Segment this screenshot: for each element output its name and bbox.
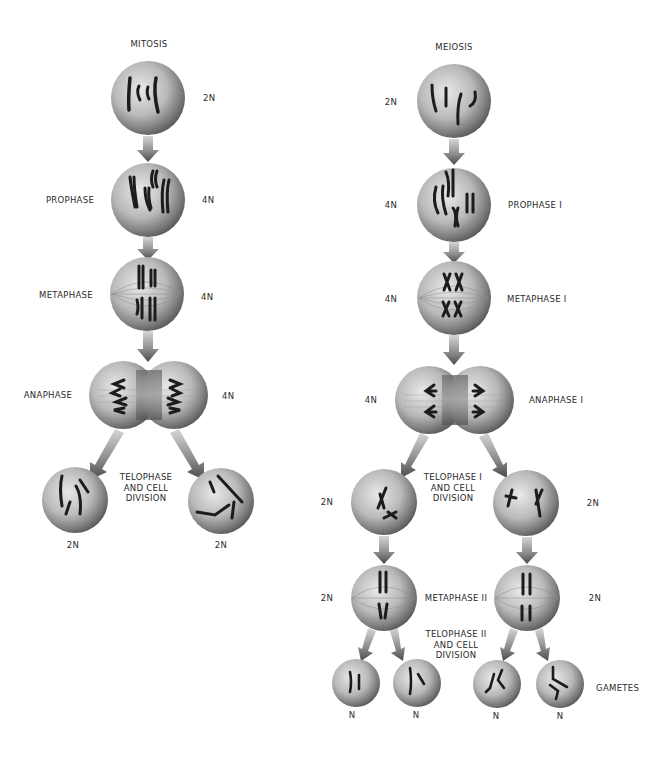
arrow-icon [137,331,159,362]
stage-label-telophase-i: TELOPHASE I AND CELL DIVISION [424,472,482,504]
ploidy-label: 2N [321,497,333,508]
stage-label-anaphase-i: ANAPHASE I [529,395,583,406]
arrow-icon [479,433,507,478]
ploidy-label: N [413,710,420,721]
arrow-icon [443,242,465,263]
stage-label-telophase-ii: TELOPHASE II AND CELL DIVISION [425,629,486,661]
meiosis-interphase-cell [417,64,491,138]
meiosis-metaphase-i-cell [417,261,491,335]
arrow-icon [535,628,550,661]
ploidy-label: N [493,711,500,722]
gametes-label: GAMETES [596,683,639,694]
gamete-cell [473,660,521,708]
stage-label-metaphase-ii: METAPHASE II [425,593,487,604]
arrow-icon [137,237,159,260]
ploidy-label: 4N [385,200,397,211]
ploidy-label: 2N [587,498,599,509]
arrow-icon [401,433,429,478]
meiosis-metaphase-ii-cell-left [351,565,417,631]
ploidy-label: 4N [222,391,234,402]
meiosis-title: MEIOSIS [435,42,472,53]
ploidy-label: 2N [67,540,79,551]
gamete-cell [393,659,441,707]
mitosis-daughter-cell-right [188,468,254,534]
ploidy-label: 2N [203,93,215,104]
stage-label-anaphase: ANAPHASE [24,390,73,401]
arrow-icon [500,628,518,661]
arrow-icon [358,628,376,661]
arrow-icon [373,536,395,564]
stage-label-metaphase: METAPHASE [39,290,93,301]
mitosis-title: MITOSIS [130,39,167,50]
ploidy-label: 4N [202,195,214,206]
arrow-icon [390,628,405,661]
mitosis-metaphase-cell [110,257,184,331]
stage-label-prophase: PROPHASE [46,195,94,206]
stage-label-telophase: TELOPHASE AND CELL DIVISION [120,472,172,504]
arrow-icon [443,335,465,365]
meiosis-telophase-i-cell-left [351,469,417,535]
ploidy-label: 2N [385,97,397,108]
gamete-cell [332,659,380,707]
mitosis-interphase-cell [111,61,185,135]
stage-label-prophase-i: PROPHASE I [508,200,562,211]
meiosis-anaphase-i-cell [395,366,514,434]
ploidy-label: 2N [589,593,601,604]
ploidy-label: 2N [321,593,333,604]
mitosis-daughter-cell-left [42,467,108,533]
ploidy-label: 4N [385,294,397,305]
mitosis-prophase-cell [111,163,185,237]
stage-label-metaphase-i: METAPHASE I [507,294,567,305]
meiosis-prophase-i-cell [417,168,491,242]
meiosis-metaphase-ii-cell-right [494,565,560,631]
arrow-icon [516,537,538,564]
diagram-artwork [0,0,663,757]
mitosis-anaphase-cell [89,361,208,429]
ploidy-label: N [557,711,564,722]
gamete-cell [536,660,584,708]
arrow-icon [170,429,204,480]
arrow-icon [443,139,465,165]
ploidy-label: 4N [365,395,377,406]
cell-division-diagram: MITOSIS 2N PROPHASE 4N METAPHASE 4N ANAP… [0,0,663,757]
arrow-icon [137,136,159,162]
ploidy-label: 2N [215,540,227,551]
meiosis-telophase-i-cell-right [493,470,559,536]
ploidy-label: 4N [201,292,213,303]
ploidy-label: N [349,710,356,721]
